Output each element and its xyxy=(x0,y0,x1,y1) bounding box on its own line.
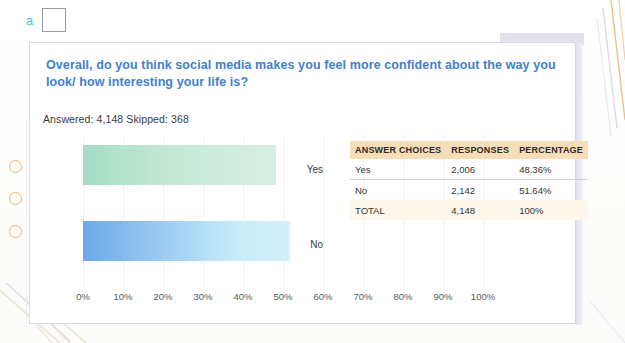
cut-off-text-top xyxy=(62,0,372,5)
chart-bar-no[interactable] xyxy=(83,221,290,261)
chart-x-tick-label: 40% xyxy=(233,291,252,302)
col-answer-choices: ANSWER CHOICES xyxy=(350,141,446,159)
chart-x-tick-label: 50% xyxy=(273,291,292,302)
chart-bar-yes[interactable] xyxy=(83,145,276,185)
chart-x-tick-label: 10% xyxy=(113,291,132,302)
table-header-row: ANSWER CHOICES RESPONSES PERCENTAGE xyxy=(350,141,588,159)
cell-percentage: 48.36% xyxy=(514,159,588,180)
table-header: ANSWER CHOICES RESPONSES PERCENTAGE xyxy=(350,141,588,159)
chart-x-tick-label: 70% xyxy=(353,291,372,302)
cell-responses: 2,142 xyxy=(446,180,514,201)
chart-x-tick-label: 30% xyxy=(193,291,212,302)
survey-result-card: Overall, do you think social media makes… xyxy=(29,42,576,324)
annotation-marker-row: a xyxy=(26,8,66,32)
chart-x-tick-label: 60% xyxy=(313,291,332,302)
scanned-page-background: a Overall, do you think social media mak… xyxy=(0,0,625,343)
chart-x-tick-label: 100% xyxy=(471,291,495,302)
table-body: Yes2,00648.36%No2,14251.64%TOTAL4,148100… xyxy=(350,159,588,220)
cell-percentage: 100% xyxy=(514,200,588,220)
table-row: No2,14251.64% xyxy=(350,180,588,201)
marker-letter-a: a xyxy=(26,14,33,27)
empty-checkbox[interactable] xyxy=(42,8,66,32)
answered-skipped-line: Answered: 4,148 Skipped: 368 xyxy=(43,113,189,125)
binder-hole-icon xyxy=(9,225,22,238)
chart-x-tick-label: 0% xyxy=(76,291,90,302)
chart-gridline xyxy=(323,135,324,287)
chart-x-tick-label: 80% xyxy=(393,291,412,302)
cell-answer-choice: Yes xyxy=(350,159,446,180)
chart-x-axis: 0%10%20%30%40%50%60%70%80%90%100% xyxy=(83,287,483,307)
cell-answer-choice: No xyxy=(350,180,446,201)
question-divider xyxy=(43,101,563,102)
cell-percentage: 51.64% xyxy=(514,180,588,201)
horizontal-bar-chart: Yes No 0%10%20%30%40%50%60%70%80%90%100% xyxy=(43,135,323,311)
margin-rule xyxy=(26,118,27,323)
table-row: TOTAL4,148100% xyxy=(350,200,588,220)
cell-answer-choice: TOTAL xyxy=(350,200,446,220)
binder-hole-icon xyxy=(9,160,22,173)
table-row: Yes2,00648.36% xyxy=(350,159,588,180)
chart-x-tick-label: 20% xyxy=(153,291,172,302)
survey-question: Overall, do you think social media makes… xyxy=(46,57,566,91)
chart-x-tick-label: 90% xyxy=(433,291,452,302)
cell-responses: 2,006 xyxy=(446,159,514,180)
chart-gridline xyxy=(283,135,284,287)
col-percentage: PERCENTAGE xyxy=(514,141,588,159)
binder-hole-icon xyxy=(9,192,22,205)
cell-responses: 4,148 xyxy=(446,200,514,220)
col-responses: RESPONSES xyxy=(446,141,514,159)
answer-choices-table: ANSWER CHOICES RESPONSES PERCENTAGE Yes2… xyxy=(350,141,588,220)
